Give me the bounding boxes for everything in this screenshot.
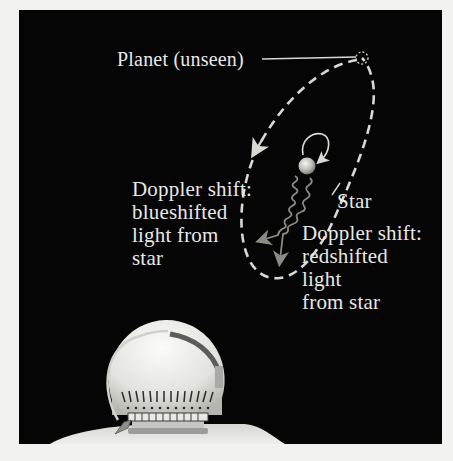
redshift-annotation: Doppler shift: redshifted light from sta… — [302, 222, 422, 314]
planet-pointer-line — [262, 57, 356, 59]
redshift-heading: Doppler shift: — [302, 222, 422, 245]
diagram-panel: Planet (unseen) Star Doppler shift: blue… — [19, 10, 442, 444]
telescope-dome-icon — [108, 320, 225, 434]
redshift-line-1: redshifted — [302, 245, 422, 268]
star-label: Star — [337, 190, 372, 213]
blueshift-line-2: light from — [132, 224, 252, 247]
blueshift-ray-icon — [262, 176, 298, 240]
blueshift-annotation: Doppler shift: blueshifted light from st… — [132, 178, 252, 270]
redshift-line-3: from star — [302, 291, 422, 314]
blueshift-line-1: blueshifted — [132, 201, 252, 224]
star-icon — [299, 158, 316, 175]
planet-label: Planet (unseen) — [117, 48, 244, 71]
star-wobble-icon — [303, 134, 329, 160]
blueshift-heading: Doppler shift: — [132, 178, 252, 201]
blueshift-line-3: star — [132, 247, 252, 270]
redshift-line-2: light — [302, 268, 422, 291]
